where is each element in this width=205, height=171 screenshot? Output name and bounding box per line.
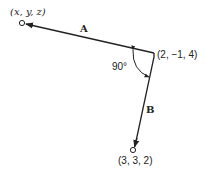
vertex-label: (2, −1, 4) (157, 49, 197, 60)
vector-a-line (26, 24, 154, 53)
point-unknown-marker (19, 20, 24, 25)
vector-a-label: A (79, 23, 88, 34)
vector-b-arrowhead (135, 138, 138, 147)
vector-diagram: (x, y, z) A (2, −1, 4) 90° B (3, 3, 2) (0, 0, 205, 171)
angle-arc (133, 50, 149, 77)
point-b-label: (3, 3, 2) (118, 155, 152, 166)
vector-b-line (135, 53, 154, 146)
vector-b-label: B (146, 104, 154, 115)
point-b-marker (130, 147, 135, 152)
angle-label: 90° (112, 61, 127, 72)
point-unknown-label: (x, y, z) (10, 6, 46, 17)
